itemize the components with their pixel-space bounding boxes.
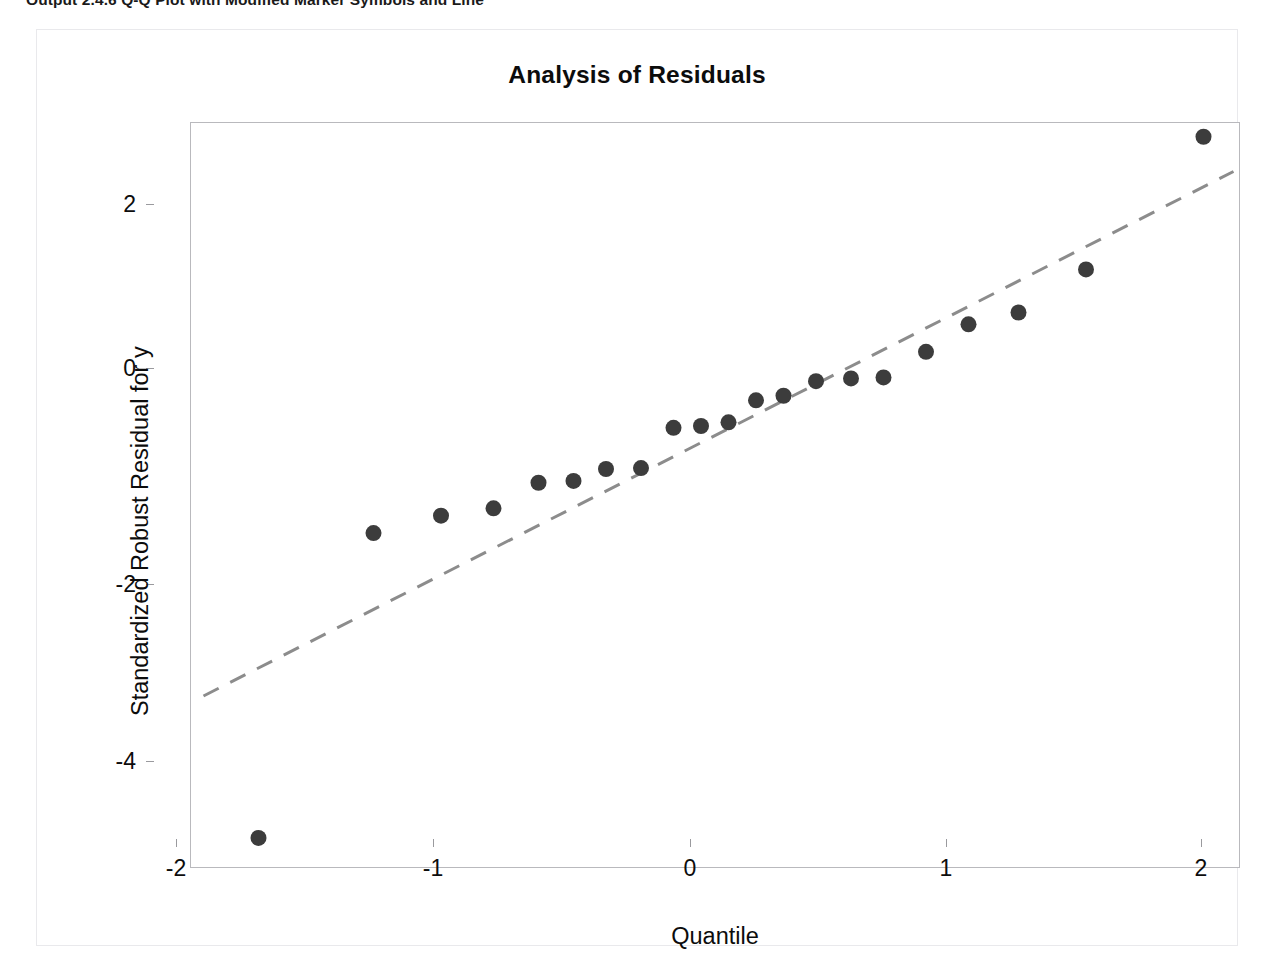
x-axis-ticks: -2-1012	[1, 1, 1263, 979]
x-tick-label: -2	[166, 855, 186, 882]
x-tick-mark	[433, 839, 434, 847]
y-axis-label: Standardized Robust Residual for y	[127, 346, 154, 716]
x-tick-label: 0	[684, 855, 697, 882]
x-tick-label: 2	[1195, 855, 1208, 882]
x-tick-mark	[176, 839, 177, 847]
ods-graph-panel: Analysis of Residuals 20-2-4 -2-1012 Sta…	[36, 29, 1238, 946]
x-tick-mark	[1201, 839, 1202, 847]
x-tick-mark	[690, 839, 691, 847]
x-tick-label: 1	[940, 855, 953, 882]
x-tick-label: -1	[423, 855, 443, 882]
x-axis-label: Quantile	[190, 923, 1240, 950]
x-tick-mark	[946, 839, 947, 847]
